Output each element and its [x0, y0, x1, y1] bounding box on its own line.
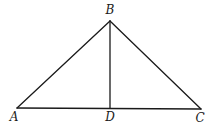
segment-bc	[110, 21, 201, 109]
label-b: B	[105, 3, 115, 17]
label-d: D	[104, 110, 115, 124]
segment-ab	[17, 21, 110, 108]
triangle-diagram: A B C D	[0, 0, 214, 128]
label-c: C	[195, 111, 204, 125]
label-a: A	[9, 110, 19, 124]
segment-ac	[17, 108, 201, 109]
